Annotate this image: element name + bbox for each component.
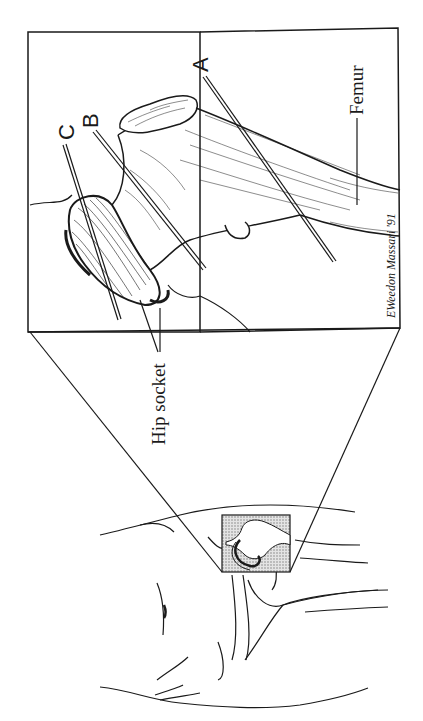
label-b: B bbox=[78, 113, 103, 128]
magnified-view-frame bbox=[28, 28, 400, 332]
artist-signature: EWeedon Massari '91 bbox=[384, 213, 398, 319]
inset-hip-box bbox=[222, 515, 290, 572]
femoral-head bbox=[66, 196, 168, 305]
label-a: A bbox=[188, 57, 213, 72]
hip-socket-leader-lines bbox=[140, 300, 160, 352]
label-hip-socket: Hip socket bbox=[148, 362, 169, 445]
greater-trochanter bbox=[120, 96, 198, 133]
section-line-a bbox=[203, 76, 336, 262]
lesser-trochanter bbox=[225, 222, 250, 238]
zoom-projection-lines bbox=[30, 328, 400, 572]
label-femur: Femur bbox=[346, 65, 367, 115]
hip-joint-illustration: A B C Femur Hip socket EWeedon Massari '… bbox=[0, 0, 423, 721]
label-c: C bbox=[54, 124, 79, 140]
